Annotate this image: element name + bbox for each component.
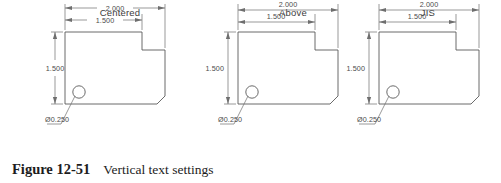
dim-inner-width: 1.500 [96, 16, 115, 25]
part-outline [238, 32, 338, 104]
figure-title: Vertical text settings [103, 162, 213, 177]
dim-hole-diameter: Ø0.250 [45, 115, 69, 124]
dim-inner-width: 1.500 [267, 12, 286, 21]
part-outline [379, 32, 479, 104]
drawing-jis: 2.000 1.500 1.500 Ø0.250 [355, 0, 501, 160]
drawing-above: 2.000 1.500 1.500 Ø0.250 [218, 0, 368, 160]
figure-caption: Figure 12-51Vertical text settings [12, 160, 214, 178]
dim-hole-diameter: Ø0.250 [357, 115, 381, 124]
dim-height: 1.500 [46, 64, 65, 73]
figure-canvas: Centered [0, 0, 501, 183]
dim-overall-width: 2.000 [106, 4, 125, 13]
dim-overall-width: 2.000 [420, 0, 439, 9]
panel-above: Above [218, 0, 368, 160]
dim-inner-width: 1.500 [408, 12, 427, 21]
dim-hole-diameter: Ø0.250 [218, 115, 242, 124]
panel-jis: JIS [355, 0, 501, 160]
dim-height: 1.500 [347, 64, 366, 73]
figure-number: Figure 12-51 [12, 161, 90, 177]
panel-centered: Centered [45, 0, 195, 160]
dim-height: 1.500 [206, 64, 225, 73]
part-outline [65, 32, 165, 104]
dim-overall-width: 2.000 [279, 0, 298, 9]
drawing-centered: 2.000 1.500 1.500 Ø0.250 [45, 0, 195, 160]
